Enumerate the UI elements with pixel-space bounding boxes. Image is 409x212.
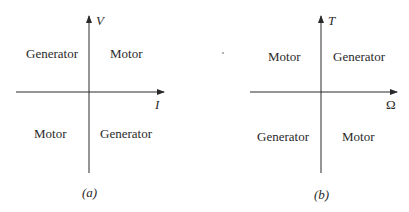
- diagram-b-quadrant-bottom-right: Motor: [342, 130, 375, 143]
- diagram-a-quadrant-bottom-right: Generator: [100, 127, 152, 140]
- diagram-b-axes: [250, 16, 397, 173]
- stray-dot: [222, 52, 224, 54]
- diagram-a-horizontal-axis-label: I: [155, 98, 159, 111]
- diagram-b-quadrant-top-left: Motor: [268, 50, 301, 63]
- diagram-a-axes: [16, 16, 164, 173]
- diagram-b-quadrant-bottom-left: Generator: [257, 130, 309, 143]
- diagram-b-vertical-axis-label: T: [328, 14, 335, 27]
- four-quadrant-diagrams: V I Generator Motor Motor Generator (a) …: [0, 0, 409, 212]
- diagram-b-horizontal-axis-label: Ω: [386, 98, 396, 111]
- diagram-b-quadrant-top-right: Generator: [333, 50, 385, 63]
- diagram-a-quadrant-top-left: Generator: [26, 47, 78, 60]
- diagram-a-quadrant-bottom-left: Motor: [34, 127, 67, 140]
- diagram-a-caption: (a): [82, 186, 97, 199]
- diagram-b-caption: (b): [314, 188, 329, 201]
- diagram-a-vertical-axis-label: V: [96, 14, 104, 27]
- diagram-a-quadrant-top-right: Motor: [110, 47, 143, 60]
- axes-canvas: [0, 0, 409, 212]
